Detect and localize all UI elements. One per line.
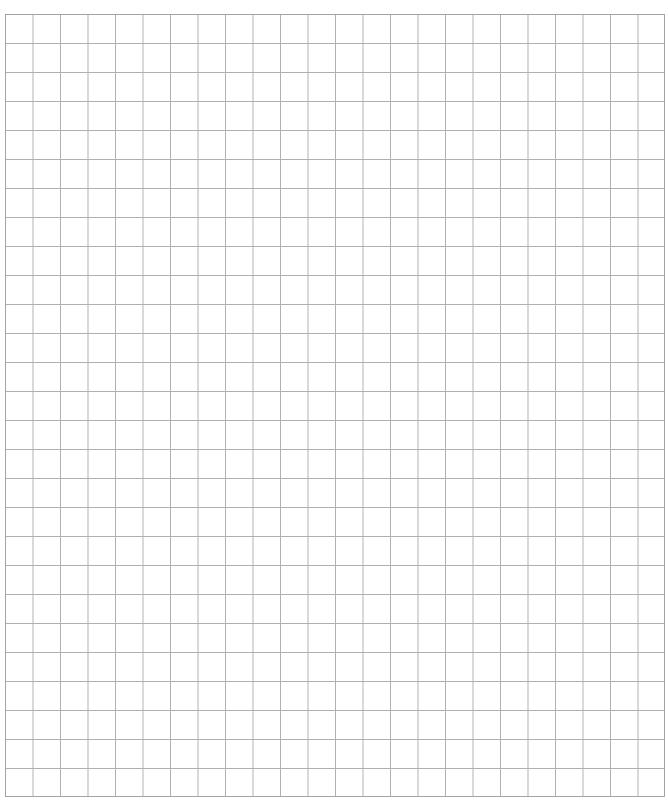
title-area	[0, 0, 668, 8]
grid-paper	[5, 14, 665, 797]
